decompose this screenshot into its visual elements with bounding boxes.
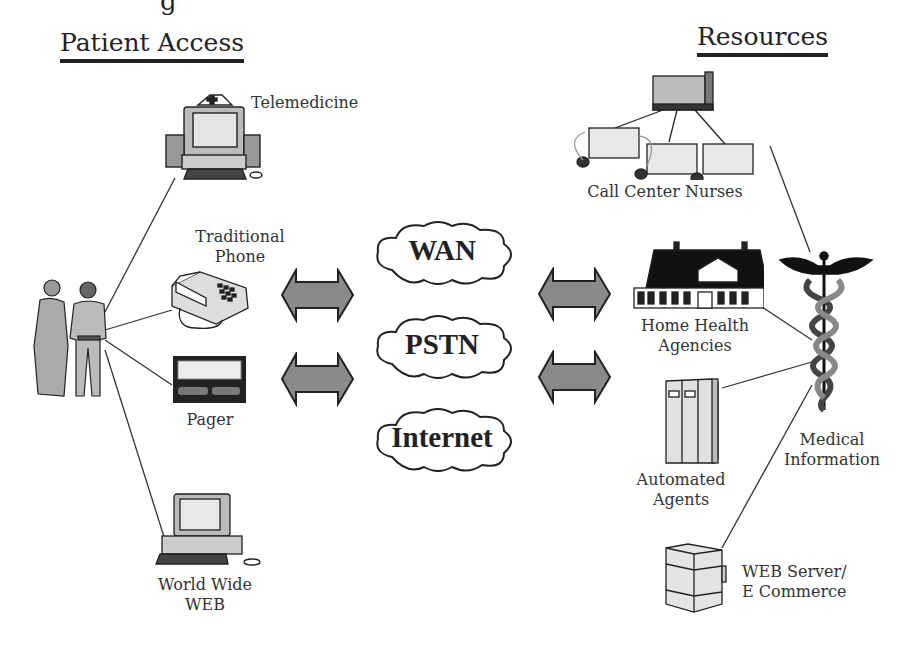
automated-agents-label: Automated Agents bbox=[626, 470, 736, 510]
automated-label-line2: Agents bbox=[626, 490, 736, 510]
automated-label-line1: Automated bbox=[626, 470, 736, 490]
world-wide-web-label: World Wide WEB bbox=[140, 575, 270, 615]
web-label-line2: WEB bbox=[140, 595, 270, 615]
double-arrow-icon bbox=[537, 350, 612, 405]
web-server-label-line2: E Commerce bbox=[742, 582, 847, 602]
web-server-icon bbox=[662, 542, 730, 614]
call-center-nurses-label: Call Center Nurses bbox=[570, 182, 760, 202]
medical-label-line1: Medical bbox=[782, 430, 882, 450]
pager-label: Pager bbox=[172, 410, 248, 430]
resources-heading: Resources bbox=[697, 22, 828, 57]
phone-label-line1: Traditional bbox=[180, 227, 300, 247]
web-label-line1: World Wide bbox=[140, 575, 270, 595]
web-server-label-line1: WEB Server/ bbox=[742, 562, 847, 582]
patients-icon bbox=[28, 276, 118, 406]
wan-cloud: WAN bbox=[372, 218, 518, 288]
double-arrow-icon bbox=[280, 268, 355, 323]
home-health-label-line2: Agencies bbox=[630, 336, 760, 356]
web-server-label: WEB Server/ E Commerce bbox=[742, 562, 847, 602]
pager-icon bbox=[172, 355, 248, 405]
pstn-cloud: PSTN bbox=[372, 312, 518, 382]
double-arrow-icon bbox=[280, 352, 355, 407]
traditional-phone-label: Traditional Phone bbox=[180, 227, 300, 267]
server-cabinet-icon bbox=[662, 375, 722, 465]
top-partial-text: g bbox=[160, 0, 177, 16]
phone-label-line2: Phone bbox=[180, 247, 300, 267]
telemedicine-label: Telemedicine bbox=[251, 93, 358, 113]
home-health-label-line1: Home Health bbox=[630, 316, 760, 336]
caduceus-icon bbox=[778, 250, 874, 415]
medical-information-label: Medical Information bbox=[782, 430, 882, 470]
desktop-computer-icon bbox=[152, 490, 272, 570]
house-icon bbox=[632, 238, 764, 310]
wan-label: WAN bbox=[372, 234, 512, 267]
call-center-icon bbox=[565, 70, 765, 180]
telephone-icon bbox=[166, 268, 250, 334]
internet-cloud: Internet bbox=[372, 405, 518, 475]
medical-label-line2: Information bbox=[782, 450, 882, 470]
internet-label: Internet bbox=[372, 421, 512, 454]
patient-access-heading: Patient Access bbox=[60, 28, 244, 63]
double-arrow-icon bbox=[537, 267, 612, 322]
pstn-label: PSTN bbox=[372, 328, 512, 361]
computer-nurse-cap-icon bbox=[160, 87, 265, 182]
home-health-agencies-label: Home Health Agencies bbox=[630, 316, 760, 356]
